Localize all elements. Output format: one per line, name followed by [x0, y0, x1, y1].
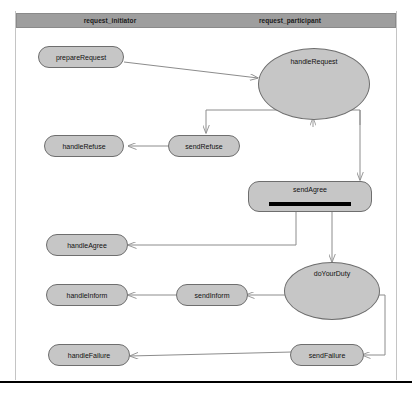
node-label-handleRequest: handleRequest: [258, 58, 370, 65]
fork-bar-sendAgree: [269, 202, 351, 206]
node-label-sendInform: sendInform: [194, 292, 229, 299]
node-sendFailure[interactable]: sendFailure: [290, 344, 364, 366]
node-prepareRequest[interactable]: prepareRequest: [38, 46, 124, 68]
node-handleRefuse[interactable]: handleRefuse: [44, 135, 124, 157]
node-sendRefuse[interactable]: sendRefuse: [168, 135, 240, 157]
node-handleFailure[interactable]: handleFailure: [48, 344, 130, 366]
bottom-divider: [0, 381, 412, 383]
node-label-handleFailure: handleFailure: [68, 352, 110, 359]
node-label-handleAgree: handleAgree: [67, 242, 107, 249]
node-label-sendRefuse: sendRefuse: [185, 143, 222, 150]
diagram-canvas: request_initiator request_participant ha…: [0, 0, 412, 393]
node-label-sendFailure: sendFailure: [309, 352, 346, 359]
node-sendInform[interactable]: sendInform: [176, 284, 248, 306]
node-label-prepareRequest: prepareRequest: [56, 54, 106, 61]
node-label-doYourDuty: doYourDuty: [284, 270, 380, 277]
node-label-sendAgree: sendAgree: [293, 186, 327, 193]
edge-handleRequest-sendAgree: [313, 110, 360, 180]
node-sendAgree[interactable]: sendAgree: [248, 181, 372, 212]
node-handleAgree[interactable]: handleAgree: [46, 234, 128, 256]
swimlane-label-request-initiator: request_initiator: [55, 17, 165, 24]
node-label-handleInform: handleInform: [67, 292, 108, 299]
node-label-handleRefuse: handleRefuse: [62, 143, 105, 150]
edge-sendFailure-handleFailure: [130, 352, 292, 356]
swimlane-label-request-participant: request_participant: [230, 17, 350, 24]
edge-prepareRequest-handleRequest: [124, 62, 258, 78]
node-handleInform[interactable]: handleInform: [46, 284, 128, 306]
edge-sendAgree-handleAgree: [128, 210, 296, 245]
